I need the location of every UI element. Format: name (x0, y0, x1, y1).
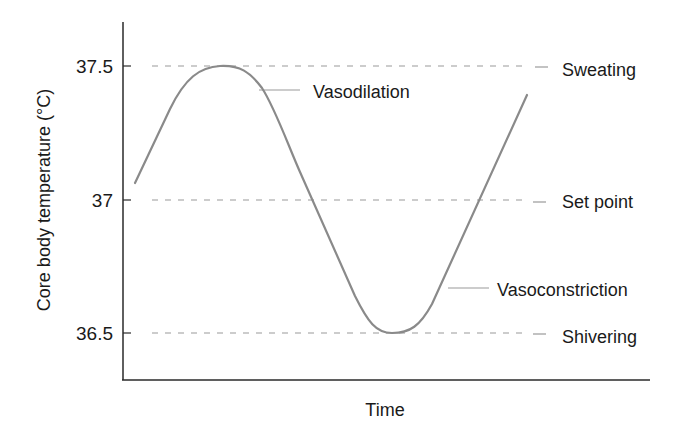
ytick-label-37-5: 37.5 (76, 56, 113, 77)
sweating-label: Sweating (562, 60, 636, 80)
y-axis-label: Core body temperature (°C) (34, 89, 54, 311)
vasodilation-label: Vasodilation (313, 82, 410, 102)
ytick-label-37: 37 (92, 190, 113, 211)
set-point-label: Set point (562, 192, 633, 212)
ytick-label-36-5: 36.5 (76, 323, 113, 344)
thermoregulation-chart: 37.5 37 36.5 Core body temperature (°C) … (0, 0, 678, 441)
x-axis-label: Time (365, 400, 404, 420)
vasoconstriction-label: Vasoconstriction (497, 280, 628, 300)
shivering-label: Shivering (562, 327, 637, 347)
